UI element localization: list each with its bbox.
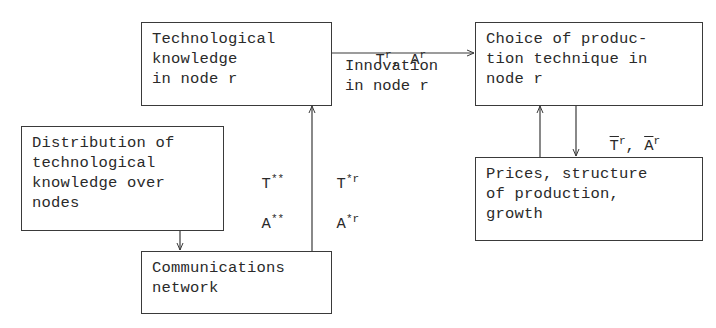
label-A-double-star: A**: [243, 197, 284, 233]
node-comm-network: Communications network: [141, 251, 332, 314]
edge-label-choice-to-prices: Tr, Ar: [591, 119, 660, 155]
node-distribution: Distribution of technological knowledge …: [21, 126, 224, 231]
node-prices: Prices, structure of production, growth: [475, 157, 703, 241]
label-A-star-r: A*r: [318, 197, 359, 233]
node-comm-network-label: Communications network: [152, 258, 285, 298]
node-distribution-label: Distribution of technological knowledge …: [32, 133, 175, 213]
node-tech-knowledge-label: Technological knowledge in node r: [152, 29, 276, 89]
node-prices-label: Prices, structure of production, growth: [486, 164, 648, 224]
edge-caption-innovation: Innovation in node r: [345, 56, 438, 96]
node-tech-knowledge: Technological knowledge in node r: [141, 22, 332, 106]
node-choice-technique-label: Choice of produc- tion technique in node…: [486, 29, 648, 89]
label-T-star-r: T*r: [318, 157, 359, 193]
node-choice-technique: Choice of produc- tion technique in node…: [475, 22, 703, 106]
label-T-double-star: T**: [243, 157, 284, 193]
